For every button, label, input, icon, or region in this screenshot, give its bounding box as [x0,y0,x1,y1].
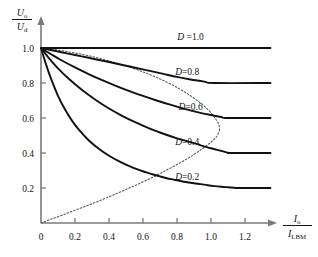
x-tick-labels: 0 0.2 0.4 0.6 0.8 1.0 1.2 [39,232,252,242]
y-axis-label-numerator: Uo [17,7,28,19]
x-tick-label-0.2: 0.2 [69,232,81,242]
series-label-D-0.2: D=0.2 [174,172,199,182]
y-tick-label-0.4: 0.4 [22,149,34,159]
chart-canvas: 1.0 0.8 0.6 0.4 0.2 0 0.2 0.4 0.6 0.8 1.… [0,0,318,257]
x-tick-label-0.6: 0.6 [137,232,149,242]
series-label-D-0.6: D=0.6 [178,102,203,112]
series-label-D-1: D =1.0 [176,32,204,42]
x-tick-label-0.4: 0.4 [103,232,115,242]
x-tick-label-1.2: 1.2 [239,232,251,242]
y-tick-label-0.2: 0.2 [22,184,34,194]
x-tick-label-0.8: 0.8 [171,232,183,242]
x-axis-arrow [268,219,277,226]
y-tick-label-0.8: 0.8 [22,79,34,89]
series-label-D-0.4: D=0.4 [174,137,199,147]
series-curve-D-0.8 [41,48,271,83]
y-axis-label-denominator: Ud [17,21,28,33]
chart-figure: 1.0 0.8 0.6 0.4 0.2 0 0.2 0.4 0.6 0.8 1.… [0,0,318,257]
y-tick-label-1.0: 1.0 [22,44,34,54]
x-tick-label-0: 0 [39,232,44,242]
x-axis-label: Io ILBM [283,213,312,240]
y-tick-label-0.6: 0.6 [22,114,34,124]
series-label-D-0.8: D=0.8 [174,67,199,77]
x-axis-label-numerator: Io [293,213,301,225]
y-tick-labels: 1.0 0.8 0.6 0.4 0.2 [22,44,34,194]
y-axis-arrow [37,16,44,25]
series-labels: D =1.0D=0.8D=0.6D=0.4D=0.2 [174,32,204,182]
y-axis-label: Uo Ud [12,7,32,33]
x-axis-label-denominator: ILBM [287,228,306,240]
series-curves [41,48,271,188]
envelope-upper-branch [41,48,220,130]
x-tick-label-1.0: 1.0 [205,232,217,242]
